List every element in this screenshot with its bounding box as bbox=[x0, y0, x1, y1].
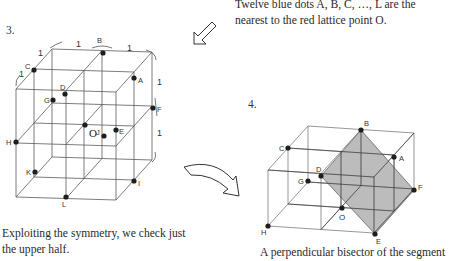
point-o bbox=[82, 122, 87, 127]
label-l: L bbox=[62, 200, 66, 209]
label-c: C bbox=[25, 62, 31, 71]
unit-label: 1 bbox=[157, 128, 162, 138]
label-g: G bbox=[298, 177, 304, 186]
hollow-curved-arrow-down-right-icon bbox=[184, 164, 239, 196]
point-d bbox=[318, 173, 323, 178]
point-k bbox=[32, 169, 37, 174]
figure-4-caption: A perpendicular bisector of the segment bbox=[260, 245, 445, 261]
point-g bbox=[305, 178, 310, 183]
point-o bbox=[339, 205, 344, 210]
label-h: H bbox=[6, 138, 11, 147]
label-f: F bbox=[157, 105, 162, 114]
point-b bbox=[100, 50, 105, 55]
label-d: D bbox=[60, 83, 66, 92]
label-d: D bbox=[316, 165, 322, 174]
label-c: C bbox=[279, 144, 285, 153]
unit-label: 1 bbox=[19, 69, 24, 79]
unit-label: 1 bbox=[38, 48, 43, 58]
figures-canvas: 1 1 1 1 1 1 B C A D G F H E J K I L O bbox=[0, 0, 453, 261]
label-a: A bbox=[138, 76, 143, 85]
label-e: E bbox=[119, 127, 124, 136]
label-a: A bbox=[399, 154, 404, 163]
figure-3-caption: Exploiting the symmetry, we check just t… bbox=[2, 226, 202, 258]
unit-label: 1 bbox=[76, 39, 81, 49]
label-b: B bbox=[97, 36, 102, 45]
point-b bbox=[358, 127, 363, 132]
figure-3-caption-line-1: Exploiting the symmetry, we check just bbox=[2, 226, 202, 242]
point-a bbox=[391, 154, 396, 159]
point-f bbox=[150, 105, 155, 110]
point-i bbox=[131, 178, 136, 183]
point-e bbox=[372, 231, 377, 236]
point-j bbox=[101, 133, 106, 138]
point-e bbox=[113, 127, 118, 132]
unit-label: 1 bbox=[127, 43, 132, 53]
point-f bbox=[411, 187, 416, 192]
point-a bbox=[131, 75, 136, 80]
figure-4-center-label: O bbox=[339, 213, 345, 222]
hollow-arrow-down-left-icon bbox=[194, 22, 216, 44]
label-k: K bbox=[26, 168, 31, 177]
label-b: B bbox=[364, 119, 369, 128]
point-d bbox=[62, 91, 67, 96]
bisector-plane bbox=[321, 130, 414, 234]
point-h bbox=[13, 139, 18, 144]
point-g bbox=[50, 97, 55, 102]
point-c bbox=[285, 145, 290, 150]
label-g: G bbox=[44, 96, 50, 105]
label-f: F bbox=[418, 183, 423, 192]
label-h: H bbox=[261, 228, 266, 237]
unit-label: 1 bbox=[157, 77, 162, 87]
point-c bbox=[31, 67, 36, 72]
label-i: I bbox=[138, 179, 140, 188]
point-l bbox=[63, 194, 68, 199]
figure-3-caption-line-2: the upper half. bbox=[2, 242, 202, 258]
figure-3-center-label: O bbox=[89, 127, 97, 139]
